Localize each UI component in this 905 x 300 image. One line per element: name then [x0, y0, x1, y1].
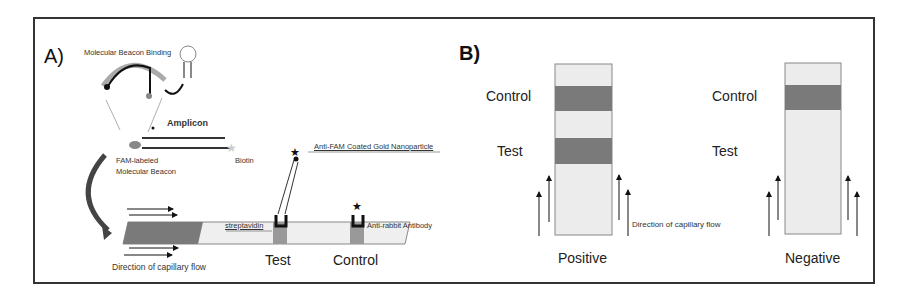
test-label-a: Test — [265, 252, 291, 268]
fam-beacon-label-2: Molecular Beacon — [116, 167, 176, 176]
svg-text:★: ★ — [226, 141, 237, 155]
test-label-negative: Test — [712, 143, 738, 159]
flow-direction-label-b: Direction of capillary flow — [632, 220, 720, 229]
biotin-label: Biotin — [235, 156, 254, 165]
amplicon-label: Amplicon — [167, 118, 208, 128]
gold-nanoparticle-label: Anti-FAM Coated Gold Nanoparticle — [314, 142, 433, 151]
beacon-binding-label: Molecular Beacon Binding — [84, 48, 171, 57]
streptavidin-label: streptavidin — [225, 221, 263, 230]
control-label-negative: Control — [712, 88, 757, 104]
panel-b-label: B) — [459, 42, 480, 65]
svg-text:★: ★ — [352, 200, 362, 212]
positive-caption: Positive — [558, 250, 607, 266]
control-label-positive: Control — [486, 88, 531, 104]
anti-rabbit-label: Anti-rabbit Antibody — [367, 221, 432, 230]
svg-text:★: ★ — [290, 146, 300, 158]
test-label-positive: Test — [497, 143, 523, 159]
flow-direction-label-a: Direction of capillary flow — [112, 262, 206, 272]
fam-beacon-label-1: FAM-labeled — [116, 156, 158, 165]
negative-caption: Negative — [785, 250, 840, 266]
panel-a-label: A) — [44, 45, 64, 68]
control-label-a: Control — [333, 252, 378, 268]
diagram-graphics: ★ ★ ★ — [0, 0, 905, 300]
